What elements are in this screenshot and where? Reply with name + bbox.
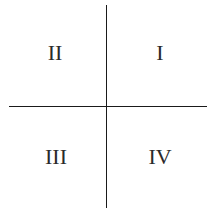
quadrant-label-i: I [156,42,163,64]
quadrant-label-iii: III [45,146,67,168]
quadrant-label-ii: II [48,42,63,64]
horizontal-axis [9,106,207,107]
quadrant-diagram: II I III IV [0,0,214,208]
quadrant-label-iv: IV [148,146,171,168]
